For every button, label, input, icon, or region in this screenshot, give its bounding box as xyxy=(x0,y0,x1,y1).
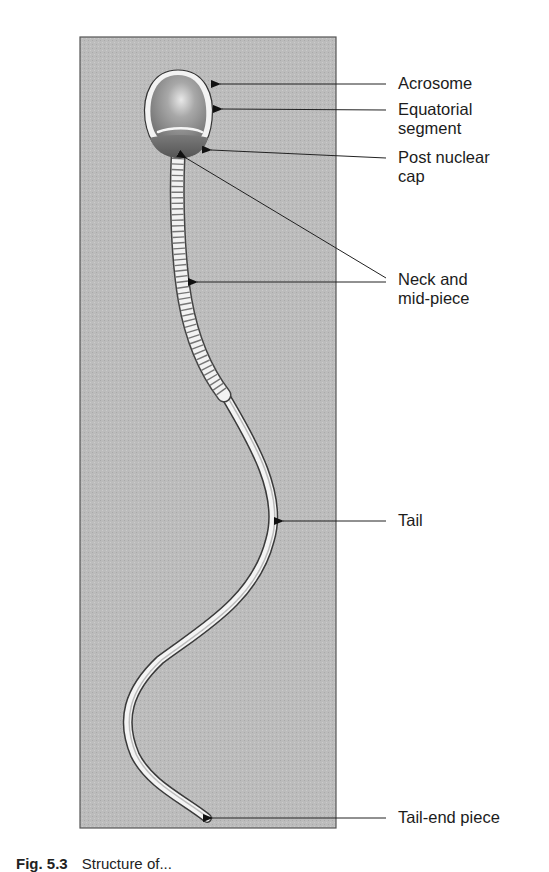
label-acrosome: Acrosome xyxy=(398,74,472,93)
label-tail-end-piece: Tail-end piece xyxy=(398,808,500,827)
label-post-nuclear-cap: Post nuclear cap xyxy=(398,148,490,186)
label-neck-and-mid-piece: Neck and mid-piece xyxy=(398,270,470,308)
label-equatorial-segment: Equatorial segment xyxy=(398,100,472,138)
figure-caption-text: Structure of... xyxy=(82,855,172,872)
label-tail: Tail xyxy=(398,511,423,530)
figure-caption: Fig. 5.3 Structure of... xyxy=(16,855,172,872)
sperm-head xyxy=(144,70,212,158)
figure-number: Fig. 5.3 xyxy=(16,855,68,872)
background-panel xyxy=(80,37,336,828)
